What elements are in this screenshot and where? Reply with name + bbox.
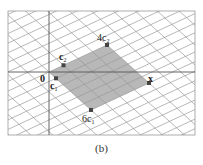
point-c2-marker [62,63,66,67]
point-c1-marker [54,76,58,80]
coordinate-grid-diagram: 0 c1 c2 4c2 6c1 x [0,0,203,165]
x-label: x [148,73,153,84]
point-6c1-marker [89,108,93,112]
figure-caption: (b) [0,142,203,154]
origin-label: 0 [40,73,45,84]
